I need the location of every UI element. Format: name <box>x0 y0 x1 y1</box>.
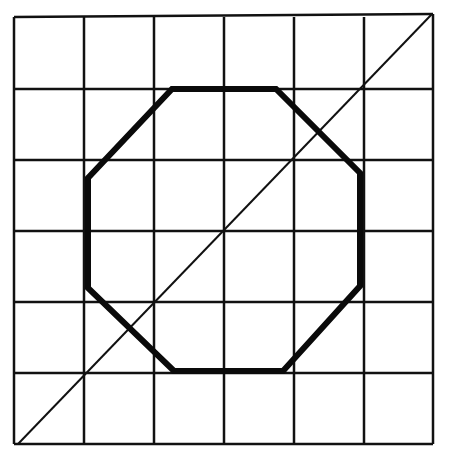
grid-octagon-diagram <box>0 0 460 456</box>
diagram-canvas <box>0 0 460 456</box>
grid-horizontal-line <box>14 14 433 17</box>
